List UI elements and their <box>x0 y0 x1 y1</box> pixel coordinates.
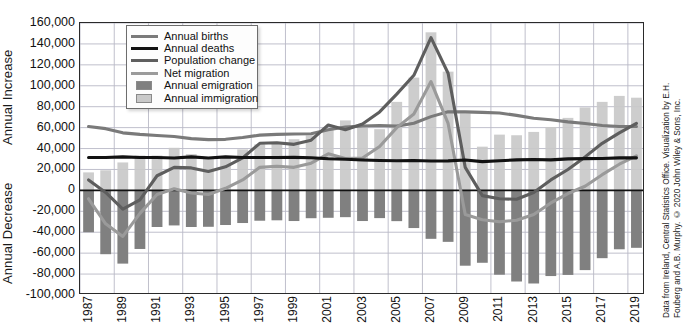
bar-emigration <box>340 190 351 217</box>
legend-bar-swatch <box>136 94 152 103</box>
legend-label: Annual emigration <box>164 80 253 91</box>
bar-immigration <box>631 98 642 191</box>
bar-immigration <box>426 32 437 190</box>
y-tick-label: -20,000 <box>33 204 75 217</box>
x-tick-label: 1987 <box>82 296 94 323</box>
x-tick-label: 2009 <box>458 296 470 323</box>
legend-line-swatch <box>131 59 158 62</box>
bar-immigration <box>186 154 197 190</box>
x-tick-label: 2001 <box>321 296 333 323</box>
bar-emigration <box>271 190 282 220</box>
x-tick-label: 1999 <box>287 296 299 323</box>
y-axis-tick-labels: 160,000140,000120,000100,00080,00060,000… <box>24 22 77 294</box>
bar-emigration <box>186 190 197 227</box>
bar-immigration <box>477 147 488 191</box>
legend-item: Annual deaths <box>131 42 252 54</box>
x-tick-label: 1993 <box>184 296 196 323</box>
bar-emigration <box>323 190 334 217</box>
y-tick-label: 40,000 <box>37 141 75 154</box>
bar-immigration <box>289 139 300 190</box>
y-tick-label: -80,000 <box>33 267 75 280</box>
y-tick-label: 120,000 <box>30 58 75 71</box>
bar-immigration <box>511 135 522 190</box>
bar-emigration <box>563 190 574 275</box>
bar-immigration <box>100 170 111 190</box>
legend-label: Population change <box>164 55 255 66</box>
legend-line-swatch <box>131 35 158 38</box>
legend-item: Annual immigration <box>131 92 252 104</box>
y-axis-title-increase: Annual Increase <box>0 22 24 172</box>
legend-line-swatch <box>131 72 158 75</box>
bar-emigration <box>306 190 317 218</box>
y-tick-label: -40,000 <box>33 225 75 238</box>
credit-line-2: Fouberg and A.B. Murphy. © 2020 John Wil… <box>673 18 681 318</box>
bar-emigration <box>528 190 539 283</box>
bar-emigration <box>391 190 402 221</box>
bar-emigration <box>220 190 231 225</box>
bar-emigration <box>443 190 454 241</box>
credit-line-1: Data from Ireland, Central Statistics Of… <box>662 18 670 318</box>
bar-emigration <box>426 190 437 238</box>
chart-legend: Annual birthsAnnual deathsPopulation cha… <box>126 25 258 109</box>
y-tick-label: -60,000 <box>33 246 75 259</box>
bar-immigration <box>528 132 539 190</box>
legend-item: Annual emigration <box>131 80 252 92</box>
y-tick-label: 60,000 <box>37 120 75 133</box>
bar-emigration <box>83 190 94 232</box>
x-tick-label: 2017 <box>595 296 607 323</box>
bar-emigration <box>169 190 180 225</box>
x-tick-label: 2007 <box>424 296 436 323</box>
legend-label: Annual births <box>164 31 228 42</box>
bar-emigration <box>408 190 419 228</box>
x-tick-label: 2005 <box>390 296 402 323</box>
bar-emigration <box>580 190 591 270</box>
chart-figure: Annual Increase Annual Decrease 160,0001… <box>0 0 691 331</box>
y-tick-label: 80,000 <box>37 99 75 112</box>
bar-emigration <box>511 190 522 281</box>
y-tick-label: 20,000 <box>37 162 75 175</box>
bar-emigration <box>477 190 488 262</box>
bar-emigration <box>254 190 265 220</box>
y-tick-label: 100,000 <box>30 79 75 92</box>
legend-item: Net migration <box>131 67 252 79</box>
y-tick-label: 140,000 <box>30 37 75 50</box>
x-tick-label: 1989 <box>116 296 128 323</box>
bar-immigration <box>203 159 214 190</box>
bar-immigration <box>408 78 419 191</box>
bar-emigration <box>117 190 128 263</box>
x-tick-label: 2011 <box>492 296 504 322</box>
x-tick-label: 2013 <box>527 296 539 323</box>
bar-immigration <box>117 162 128 190</box>
bar-emigration <box>494 190 505 274</box>
bar-immigration <box>135 156 146 191</box>
legend-item: Annual births <box>131 30 252 42</box>
y-axis-title-decrease: Annual Decrease <box>0 172 24 294</box>
x-tick-label: 1997 <box>253 296 265 323</box>
legend-label: Annual deaths <box>164 43 234 54</box>
bar-emigration <box>374 190 385 218</box>
bar-emigration <box>237 190 248 223</box>
bar-emigration <box>614 190 625 249</box>
bar-immigration <box>614 96 625 190</box>
x-tick-label: 1991 <box>150 296 162 323</box>
x-tick-label: 2019 <box>629 296 641 323</box>
y-tick-label: -100,000 <box>26 288 75 301</box>
x-tick-label: 1995 <box>219 296 231 323</box>
bar-immigration <box>580 107 591 190</box>
bar-emigration <box>597 190 608 258</box>
y-tick-label: 160,000 <box>30 16 75 29</box>
legend-line-swatch <box>131 47 158 50</box>
x-axis-tick-labels: 1987198919911993199519971999200120032005… <box>79 296 644 331</box>
legend-label: Annual immigration <box>164 93 258 104</box>
bar-emigration <box>357 190 368 221</box>
credit-block: Data from Ireland, Central Statistics Of… <box>652 18 686 318</box>
legend-bar-swatch <box>136 81 152 90</box>
legend-label: Net migration <box>164 68 229 79</box>
y-tick-label: 0 <box>68 183 75 196</box>
bar-emigration <box>631 190 642 247</box>
bar-immigration <box>563 118 574 190</box>
bar-immigration <box>391 102 402 191</box>
emigration-bars <box>83 190 642 283</box>
x-tick-label: 2015 <box>561 296 573 323</box>
bar-emigration <box>289 190 300 221</box>
